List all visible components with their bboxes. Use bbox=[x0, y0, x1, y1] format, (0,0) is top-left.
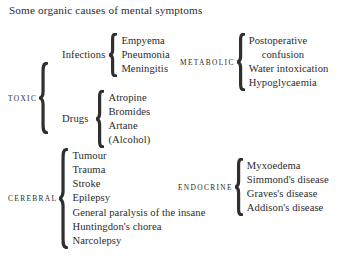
item-list-infections: Empyema Pneumonia Meningitis bbox=[121, 34, 169, 77]
list-item: Addison's disease bbox=[247, 201, 329, 215]
list-item: Empyema bbox=[121, 34, 169, 48]
subgroup-label-infections: Infections bbox=[62, 48, 105, 62]
item-list-metabolic: Postoperative confusion Water intoxicati… bbox=[249, 34, 329, 91]
list-item: confusion bbox=[249, 48, 329, 62]
brace-infections bbox=[109, 33, 117, 77]
list-item: Hypoglycaemia bbox=[249, 76, 329, 90]
branch-toxic: TOXIC bbox=[8, 62, 52, 134]
item-list-drugs: Atropine Bromides Artane (Alcohol) bbox=[108, 91, 150, 148]
list-item: Artane bbox=[108, 119, 150, 133]
list-item: Huntingdon's chorea bbox=[72, 220, 205, 234]
list-item: Meningitis bbox=[121, 62, 169, 76]
brace-cerebral bbox=[59, 148, 68, 249]
subgroup-label-drugs: Drugs bbox=[62, 112, 88, 126]
branch-endocrine: ENDOCRINE Myxoedema Simmond's disease Gr… bbox=[178, 158, 329, 216]
branch-label-cerebral: CEREBRAL bbox=[8, 194, 59, 203]
list-item: Bromides bbox=[108, 105, 150, 119]
list-item: Myxoedema bbox=[247, 159, 329, 173]
branch-label-endocrine: ENDOCRINE bbox=[178, 183, 235, 192]
brace-endocrine bbox=[235, 158, 243, 216]
list-item: Pneumonia bbox=[121, 48, 169, 62]
item-list-endocrine: Myxoedema Simmond's disease Graves's dis… bbox=[247, 159, 329, 216]
brace-toxic bbox=[39, 62, 48, 134]
list-item: Water intoxication bbox=[249, 62, 329, 76]
list-item: Postoperative bbox=[249, 34, 329, 48]
subgroup-drugs: Drugs Atropine Bromides Artane (Alcohol) bbox=[62, 90, 150, 148]
diagram-page: Some organic causes of mental symptoms T… bbox=[0, 0, 354, 258]
branch-label-toxic: TOXIC bbox=[8, 94, 39, 103]
list-item: (Alcohol) bbox=[108, 133, 150, 147]
list-item: Atropine bbox=[108, 91, 150, 105]
brace-metabolic bbox=[237, 33, 245, 91]
list-item: Graves's disease bbox=[247, 187, 329, 201]
branch-label-metabolic: METABOLIC bbox=[180, 58, 237, 67]
list-item: Simmond's disease bbox=[247, 173, 329, 187]
subgroup-infections: Infections Empyema Pneumonia Meningitis bbox=[62, 33, 170, 77]
branch-metabolic: METABOLIC Postoperative confusion Water … bbox=[180, 33, 328, 91]
list-item: Narcolepsy bbox=[72, 234, 205, 248]
branch-cerebral: CEREBRAL Tumour Trauma Stroke Epilepsy G… bbox=[8, 148, 206, 249]
brace-drugs bbox=[96, 90, 104, 148]
page-title: Some organic causes of mental symptoms bbox=[9, 3, 202, 17]
